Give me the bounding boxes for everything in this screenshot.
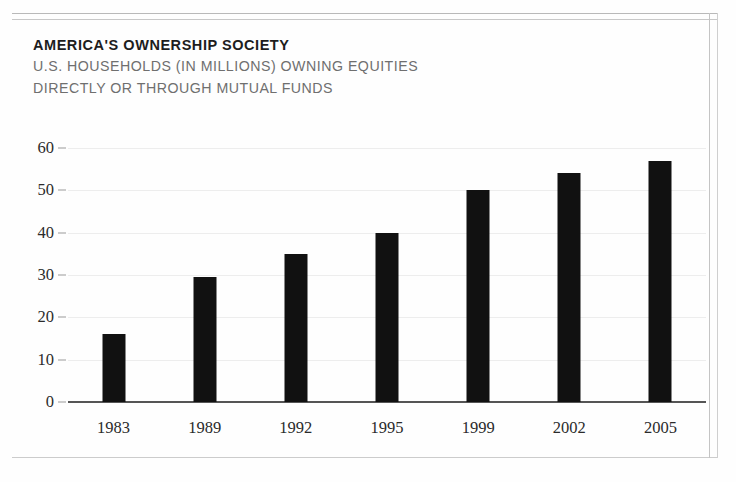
y-axis-tick-label: 10 bbox=[38, 350, 55, 370]
y-axis-tick-label: 30 bbox=[38, 265, 55, 285]
y-axis-tick-mark bbox=[58, 317, 66, 318]
y-axis-tick-label: 20 bbox=[38, 307, 55, 327]
bar-1989 bbox=[193, 277, 216, 402]
page-gutter-rule-left bbox=[709, 13, 710, 458]
chart-heading: AMERICA'S OWNERSHIP SOCIETY U.S. HOUSEHO… bbox=[33, 36, 553, 99]
x-axis-tick-label: 1995 bbox=[371, 418, 404, 438]
bar-1992 bbox=[284, 254, 307, 402]
chart-subtitle-line-1: U.S. HOUSEHOLDS (IN MILLIONS) OWNING EQU… bbox=[33, 55, 553, 77]
bar-1999 bbox=[467, 190, 490, 402]
bar-2002 bbox=[558, 173, 581, 402]
x-axis-tick-label: 2005 bbox=[644, 418, 677, 438]
x-axis-tick-label: 1983 bbox=[97, 418, 130, 438]
y-axis-tick-label: 50 bbox=[38, 180, 55, 200]
page-rule-top-outer bbox=[12, 13, 718, 14]
gridline bbox=[68, 148, 706, 149]
y-axis-tick-label: 0 bbox=[46, 392, 54, 412]
gridline bbox=[68, 190, 706, 191]
y-axis-tick-label: 60 bbox=[38, 138, 55, 158]
chart-title: AMERICA'S OWNERSHIP SOCIETY bbox=[33, 36, 553, 55]
x-axis-tick-label: 1992 bbox=[279, 418, 312, 438]
y-axis-tick-mark bbox=[58, 148, 66, 149]
x-axis-tick-label: 2002 bbox=[553, 418, 586, 438]
bar-2005 bbox=[649, 161, 672, 402]
bar-1983 bbox=[102, 334, 125, 402]
x-axis-tick-label: 1999 bbox=[462, 418, 495, 438]
page-gutter-rule-right bbox=[717, 13, 718, 458]
x-axis-tick-label: 1989 bbox=[188, 418, 221, 438]
y-axis-tick-mark bbox=[58, 232, 66, 233]
page-rule-bottom bbox=[12, 457, 718, 458]
chart-plot-area: 0102030405060198319891992199519992002200… bbox=[68, 148, 706, 402]
page-frame: AMERICA'S OWNERSHIP SOCIETY U.S. HOUSEHO… bbox=[0, 0, 736, 482]
y-axis-tick-mark bbox=[58, 359, 66, 360]
y-axis-tick-mark bbox=[58, 190, 66, 191]
y-axis-tick-label: 40 bbox=[38, 223, 55, 243]
y-axis-tick-mark bbox=[58, 402, 66, 403]
page-rule-top-inner bbox=[12, 19, 718, 20]
bar-1995 bbox=[376, 233, 399, 402]
y-axis-tick-mark bbox=[58, 275, 66, 276]
chart-subtitle-line-2: DIRECTLY OR THROUGH MUTUAL FUNDS bbox=[33, 77, 553, 99]
